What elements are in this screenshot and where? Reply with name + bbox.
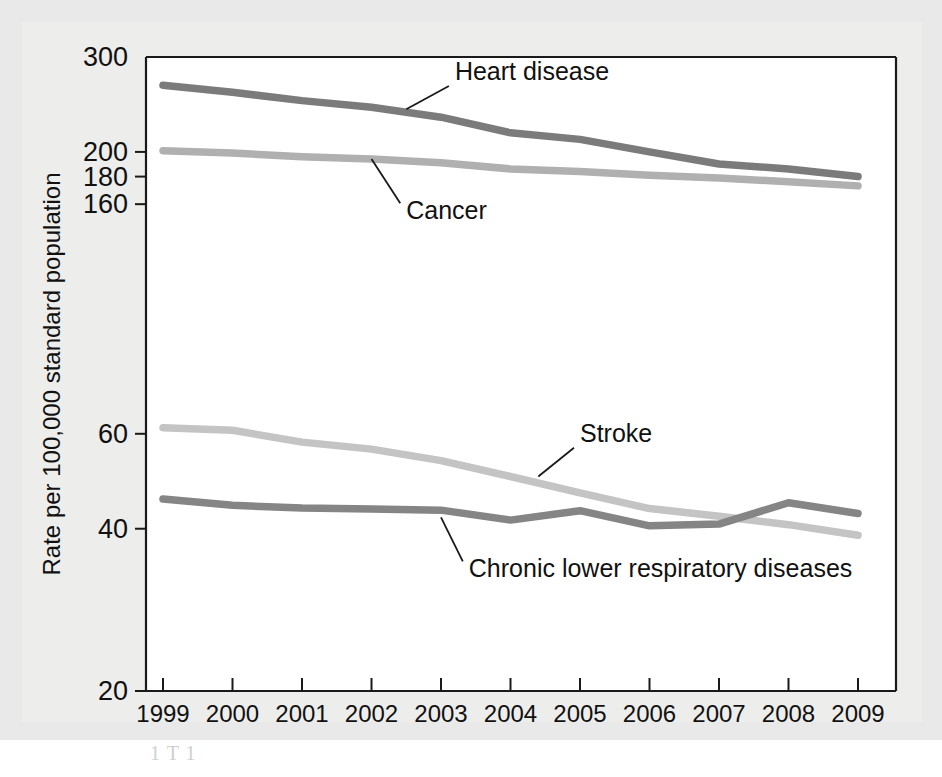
series-label: Heart disease [455, 57, 609, 85]
x-tick-label: 2008 [762, 700, 815, 727]
y-axis-ticks [135, 152, 146, 691]
x-tick-label: 2006 [623, 700, 676, 727]
page-root: 300200180160604020 199920002001200220032… [0, 0, 942, 777]
series-label: Cancer [406, 196, 487, 224]
y-tick-label: 40 [98, 514, 128, 544]
y-tick-label: 60 [98, 419, 128, 449]
line-chart-svg: 300200180160604020 199920002001200220032… [0, 0, 942, 777]
x-tick-label: 2003 [414, 700, 467, 727]
y-tick-label: 20 [98, 676, 128, 706]
x-tick-label: 2007 [692, 700, 745, 727]
chart-figure: 300200180160604020 199920002001200220032… [0, 0, 942, 777]
y-axis-title-text: Rate per 100,000 standard population [38, 173, 65, 576]
x-tick-label: 1999 [136, 700, 189, 727]
x-tick-label: 2000 [206, 700, 259, 727]
x-tick-label: 2004 [484, 700, 537, 727]
y-tick-label: 300 [83, 42, 128, 72]
series-label: Stroke [580, 419, 652, 447]
x-axis-tick-labels: 1999200020012002200320042005200620072008… [136, 700, 884, 727]
y-axis-tick-labels: 300200180160604020 [83, 42, 128, 706]
x-tick-label: 2005 [553, 700, 606, 727]
y-axis-title: Rate per 100,000 standard population [38, 173, 65, 576]
series-label: Chronic lower respiratory diseases [469, 554, 852, 582]
x-tick-label: 2002 [345, 700, 398, 727]
y-tick-label: 180 [83, 162, 128, 192]
y-tick-label: 160 [83, 189, 128, 219]
x-tick-label: 2001 [275, 700, 328, 727]
page-faint-caption: 1 T 1 [150, 742, 197, 765]
x-tick-label: 2009 [831, 700, 884, 727]
